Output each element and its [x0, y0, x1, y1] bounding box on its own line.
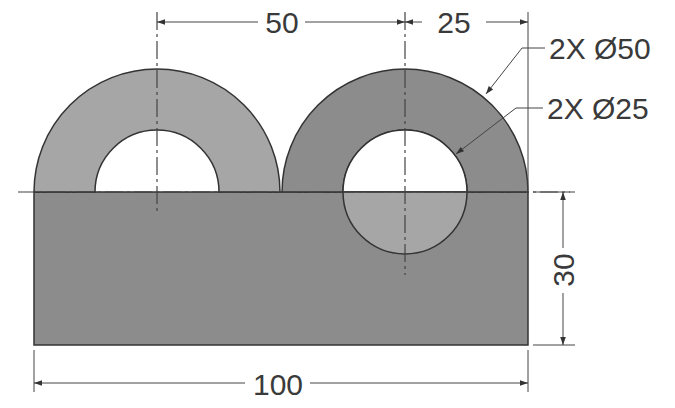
callout-outer-diameter: 2X Ø50	[549, 32, 651, 65]
dim-50-label: 50	[265, 6, 298, 39]
callout-inner-diameter: 2X Ø25	[547, 92, 649, 125]
engineering-drawing: 50 25 100 30 2X Ø50 2X Ø25	[0, 0, 675, 408]
dim-100-label: 100	[253, 368, 303, 401]
dim-25-label: 25	[437, 6, 470, 39]
dim-30-label: 30	[547, 253, 580, 286]
